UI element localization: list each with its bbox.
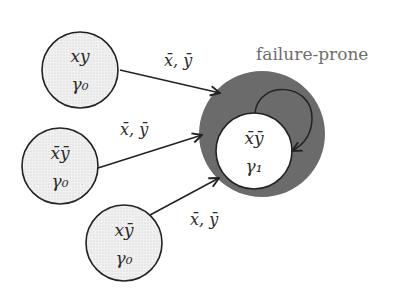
- node-x-ybar-state: xȳ: [114, 220, 134, 240]
- node-failure-xbar-ybar-circle: [216, 113, 292, 189]
- node-failure-xbar-ybar-state: x̄ȳ: [244, 128, 264, 148]
- node-xy: xy γ₀: [42, 32, 118, 108]
- state-diagram: failure-prone x̄, ȳ x̄, ȳ x̄, ȳ xy γ₀ x̄…: [0, 0, 399, 300]
- node-xy-state: xy: [70, 46, 90, 66]
- edge-label-n2-to-n4: x̄, ȳ: [120, 120, 149, 139]
- node-xy-circle: [42, 32, 118, 108]
- node-xbar-ybar-circle: [22, 128, 98, 204]
- node-failure-xbar-ybar-weight: γ₁: [246, 156, 263, 176]
- node-xbar-ybar-state: x̄ȳ: [50, 143, 70, 163]
- node-x-ybar-circle: [86, 205, 162, 281]
- edge-label-n1-to-n4: x̄, ȳ: [164, 51, 193, 70]
- node-failure-xbar-ybar: x̄ȳ γ₁: [216, 113, 292, 189]
- edge-n1-to-n4: [120, 70, 220, 93]
- node-xbar-ybar-weight: γ₀: [52, 171, 69, 191]
- edge-label-n3-to-n4: x̄, ȳ: [190, 210, 219, 229]
- node-xbar-ybar: x̄ȳ γ₀: [22, 128, 98, 204]
- node-xy-weight: γ₀: [72, 74, 89, 94]
- failure-prone-label: failure-prone: [256, 44, 368, 64]
- node-x-ybar-weight: γ₀: [116, 248, 133, 268]
- edge-n2-to-n4: [98, 135, 202, 168]
- node-x-ybar: xȳ γ₀: [86, 205, 162, 281]
